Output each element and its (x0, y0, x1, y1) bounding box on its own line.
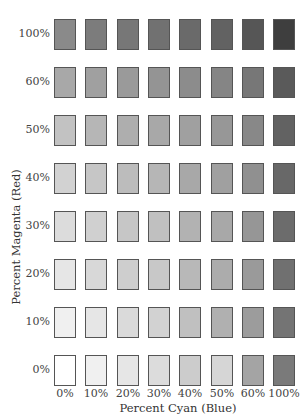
color-swatch (85, 211, 107, 242)
color-swatch (179, 211, 201, 242)
color-swatch (85, 115, 107, 146)
color-swatch (179, 115, 201, 146)
color-swatch (148, 307, 170, 338)
color-swatch (54, 163, 76, 194)
y-tick-label: 100% (10, 27, 50, 40)
color-swatch (273, 115, 295, 146)
color-swatch (211, 307, 233, 338)
color-swatch (273, 163, 295, 194)
color-swatch (54, 67, 76, 98)
color-swatch (85, 259, 107, 290)
color-swatch (54, 115, 76, 146)
color-swatch (211, 19, 233, 50)
x-tick-label: 0% (49, 387, 81, 400)
color-swatch (85, 163, 107, 194)
x-tick-label: 100% (268, 387, 300, 400)
color-swatch (211, 259, 233, 290)
color-swatch (148, 163, 170, 194)
color-swatch (117, 67, 139, 98)
color-swatch (211, 67, 233, 98)
y-axis-title: Percent Magenta (Red) (9, 167, 23, 307)
color-swatch (148, 115, 170, 146)
color-swatch (273, 355, 295, 386)
y-tick-label: 0% (10, 363, 50, 376)
x-tick-label: 60% (237, 387, 269, 400)
color-swatch (242, 259, 264, 290)
color-swatch (242, 355, 264, 386)
y-tick-label: 10% (10, 315, 50, 328)
color-swatch (273, 211, 295, 242)
color-swatch (179, 163, 201, 194)
color-swatch (242, 115, 264, 146)
x-tick-label: 50% (206, 387, 238, 400)
x-tick-label: 10% (80, 387, 112, 400)
color-swatch (179, 19, 201, 50)
color-swatch (54, 355, 76, 386)
color-swatch (54, 19, 76, 50)
color-swatch (211, 115, 233, 146)
color-swatch (148, 67, 170, 98)
color-swatch (85, 307, 107, 338)
y-tick-label: 60% (10, 75, 50, 88)
color-swatch (85, 19, 107, 50)
color-swatch (85, 355, 107, 386)
color-swatch (211, 163, 233, 194)
x-axis-title: Percent Cyan (Blue) (0, 401, 302, 415)
color-swatch (54, 211, 76, 242)
color-swatch (179, 67, 201, 98)
color-swatch (117, 211, 139, 242)
color-swatch (273, 259, 295, 290)
color-swatch (117, 115, 139, 146)
color-swatch (117, 307, 139, 338)
x-tick-label: 30% (143, 387, 175, 400)
color-swatch (54, 259, 76, 290)
color-swatch (242, 19, 264, 50)
color-swatch (242, 67, 264, 98)
color-swatch (179, 355, 201, 386)
color-swatch (179, 259, 201, 290)
x-tick-label: 40% (174, 387, 206, 400)
color-swatch (117, 163, 139, 194)
color-swatch (148, 19, 170, 50)
color-swatch (117, 19, 139, 50)
color-swatch (179, 307, 201, 338)
color-swatch (211, 355, 233, 386)
color-swatch (148, 355, 170, 386)
color-swatch (54, 307, 76, 338)
color-swatch (117, 355, 139, 386)
color-swatch (117, 259, 139, 290)
color-swatch (85, 67, 107, 98)
y-tick-label: 50% (10, 123, 50, 136)
color-swatch (148, 211, 170, 242)
color-swatch (273, 307, 295, 338)
color-swatch (273, 67, 295, 98)
color-swatch (242, 211, 264, 242)
color-swatch (148, 259, 170, 290)
color-swatch (211, 211, 233, 242)
color-swatch (242, 307, 264, 338)
color-swatch (273, 19, 295, 50)
x-tick-label: 20% (112, 387, 144, 400)
color-swatch (242, 163, 264, 194)
